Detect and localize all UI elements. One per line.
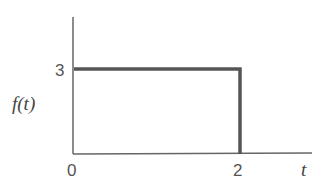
y-axis-label: f(t) [12, 93, 35, 115]
x-axis [73, 153, 312, 154]
signal-line [74, 69, 240, 154]
chart: 3 f(t) 0 2 t [0, 0, 329, 190]
x-axis-label: t [301, 159, 307, 180]
x-tick-2: 2 [233, 161, 242, 180]
y-tick-3: 3 [55, 61, 64, 80]
x-tick-0: 0 [67, 161, 76, 180]
